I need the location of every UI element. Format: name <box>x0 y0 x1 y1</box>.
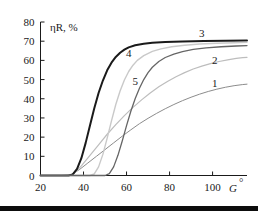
x-tick-label: 60 <box>121 181 133 193</box>
x-tick-label: 100 <box>204 181 221 193</box>
line-chart: 01020304050607080 20406080100 12345 ηR, … <box>0 0 258 217</box>
x-axis-title-superscript: ° <box>239 176 243 188</box>
x-tick-label: 80 <box>164 181 176 193</box>
curve-label-4: 4 <box>126 47 132 59</box>
x-axis-tick-labels: 20406080100 <box>35 181 221 193</box>
curve-label-1: 1 <box>212 77 218 89</box>
y-tick-label: 10 <box>24 150 36 162</box>
curve-label-2: 2 <box>212 54 218 66</box>
x-tick-label: 20 <box>35 181 47 193</box>
y-axis-tick-labels: 01020304050607080 <box>24 16 36 182</box>
y-axis-title: ηR, % <box>50 21 78 33</box>
y-tick-label: 50 <box>24 74 36 86</box>
y-tick-label: 40 <box>24 93 36 105</box>
curve-2 <box>41 57 248 175</box>
chart-figure: 01020304050607080 20406080100 12345 ηR, … <box>0 0 258 217</box>
y-tick-label: 80 <box>24 16 36 28</box>
curve-label-3: 3 <box>199 27 205 39</box>
y-tick-label: 20 <box>24 131 36 143</box>
curve-label-5: 5 <box>132 75 138 87</box>
y-tick-label: 60 <box>24 54 36 66</box>
x-axis-title: G <box>229 182 237 194</box>
y-axis-ticks <box>41 22 45 176</box>
scan-artifact-bar <box>0 206 258 211</box>
y-tick-label: 70 <box>24 35 36 47</box>
y-tick-label: 30 <box>24 112 36 124</box>
x-tick-label: 40 <box>78 181 90 193</box>
